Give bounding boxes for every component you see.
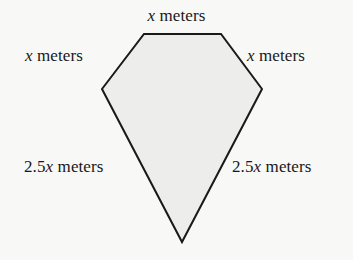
label-upper-left-variable: x	[25, 46, 33, 65]
label-top-side: x meters	[0, 6, 353, 26]
label-upper-left-unit: meters	[37, 46, 83, 65]
label-lower-left-unit: meters	[58, 157, 104, 176]
geometry-figure: x meters x meters x meters 2.5x meters 2…	[0, 0, 353, 260]
label-lower-right-coefficient: 2.5	[232, 157, 254, 176]
label-lower-right-unit: meters	[266, 157, 312, 176]
label-upper-left-side: x meters	[25, 46, 83, 66]
label-upper-right-side: x meters	[247, 46, 305, 66]
label-upper-right-variable: x	[247, 46, 255, 65]
pentagon-shape-svg	[0, 0, 353, 260]
label-lower-left-coefficient: 2.5	[24, 157, 46, 176]
label-lower-left-side: 2.5x meters	[24, 157, 104, 177]
label-top-unit: meters	[160, 6, 206, 25]
pentagon-polygon	[102, 34, 262, 242]
label-lower-right-side: 2.5x meters	[232, 157, 312, 177]
label-upper-right-unit: meters	[259, 46, 305, 65]
